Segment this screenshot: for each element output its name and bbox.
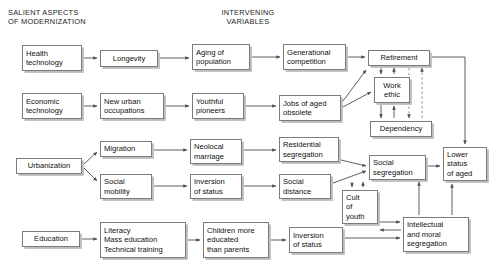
- node-youthful-pioneers[interactable]: Youthful pioneers: [192, 93, 244, 119]
- node-longevity[interactable]: Longevity: [100, 50, 158, 67]
- node-migration[interactable]: Migration: [100, 141, 152, 157]
- column-header-intervening-variables: INTERVENING VARIABLES: [196, 8, 300, 26]
- edge-urbanization-to-socialmobility: [84, 168, 97, 181]
- node-jobs-of-aged-obsolete[interactable]: Jobs of aged obsolete: [279, 95, 341, 121]
- node-social-mobility[interactable]: Social mobility: [100, 174, 152, 199]
- node-literacy-mass-education-technical-training[interactable]: Literacy Mass education Technical traini…: [100, 222, 186, 258]
- node-social-distance[interactable]: Social distance: [279, 174, 331, 199]
- node-neolocal-marriage[interactable]: Neolocal marriage: [190, 139, 242, 164]
- node-work-ethic[interactable]: Work ethic: [374, 77, 410, 103]
- node-dependency[interactable]: Dependency: [370, 121, 432, 137]
- node-generational-competition[interactable]: Generational competition: [283, 44, 346, 70]
- node-lower-status-of-aged[interactable]: Lower status of aged: [443, 147, 487, 181]
- node-inversion-of-status-upper[interactable]: Inversion of status: [190, 174, 242, 199]
- node-inversion-of-status-lower[interactable]: Inversion of status: [289, 227, 343, 253]
- node-economic-technology[interactable]: Economic technology: [22, 93, 82, 119]
- node-children-more-educated-than-parents[interactable]: Children more educated than parents: [203, 222, 269, 258]
- node-intellectual-and-moral-segregation[interactable]: Intellectual and moral segregation: [403, 217, 469, 252]
- node-education[interactable]: Education: [22, 231, 80, 247]
- node-retirement[interactable]: Retirement: [368, 50, 430, 66]
- node-health-technology[interactable]: Health technology: [22, 45, 82, 71]
- node-aging-of-population[interactable]: Aging of population: [192, 44, 250, 70]
- node-urbanization[interactable]: Urbanization: [16, 158, 82, 174]
- edge-socialdistance-to-socialsegregation: [333, 171, 366, 183]
- edge-residential-to-socialsegregation: [341, 160, 366, 166]
- node-new-urban-occupations[interactable]: New urban occupations: [100, 93, 164, 119]
- node-cult-of-youth[interactable]: Cult of youth: [342, 190, 378, 224]
- node-residential-segregation[interactable]: Residential segregation: [279, 137, 339, 162]
- edge-urbanization-to-migration: [84, 152, 97, 164]
- edge-retirement-to-lowerstatus: [432, 57, 465, 144]
- edge-jobs-to-workethic: [343, 92, 371, 107]
- modernization-flowchart: SALIENT ASPECTS OF MODERNIZATION INTERVE…: [0, 0, 501, 277]
- column-header-salient-aspects: SALIENT ASPECTS OF MODERNIZATION: [8, 8, 86, 26]
- node-social-segregation[interactable]: Social segregation: [369, 155, 426, 180]
